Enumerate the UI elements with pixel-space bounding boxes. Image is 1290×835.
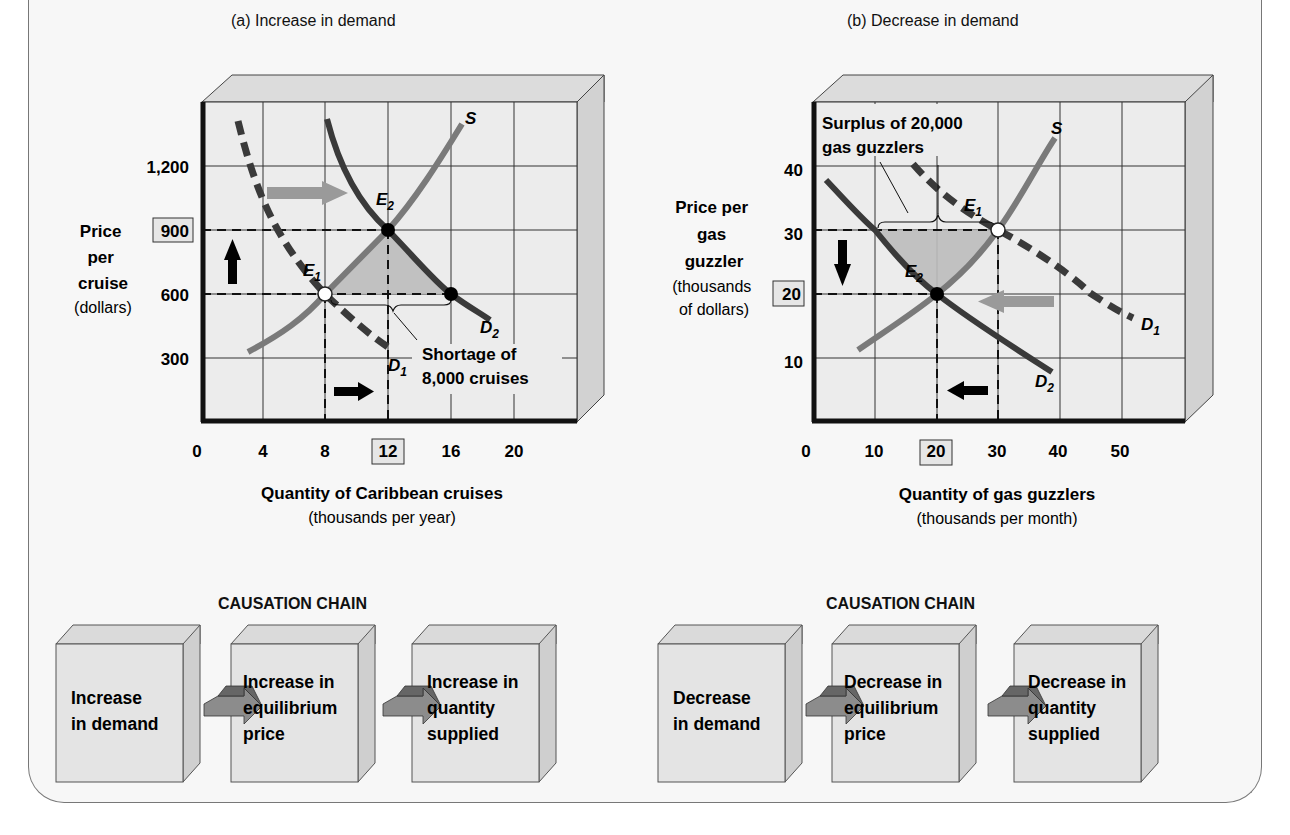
causation-chain-graphics: Increase in demand Increase in equilibri…	[0, 0, 1290, 835]
